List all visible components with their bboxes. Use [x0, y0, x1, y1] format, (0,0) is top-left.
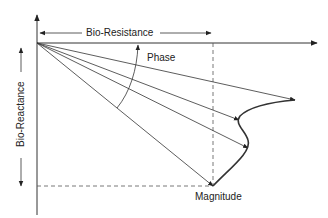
bio-resistance-label: Bio-Resistance — [86, 28, 153, 38]
impedance-locus-curve — [213, 100, 295, 186]
vector-2 — [37, 43, 239, 120]
magnitude-label: Magnitude — [195, 192, 242, 202]
phase-arc — [117, 45, 138, 108]
vector-4 — [37, 43, 213, 186]
bio-reactance-label: Bio-Reactance — [16, 83, 26, 147]
vector-3 — [37, 43, 248, 148]
phase-label: Phase — [147, 53, 175, 63]
impedance-vector-diagram — [0, 0, 328, 218]
